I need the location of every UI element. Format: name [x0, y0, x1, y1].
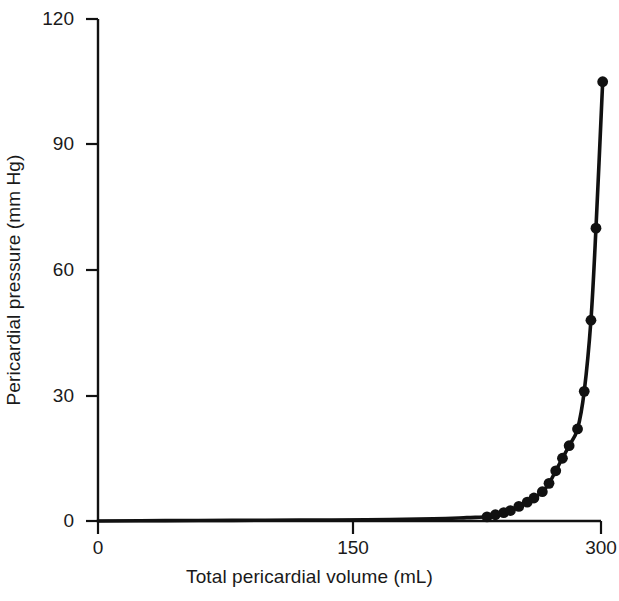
data-point — [564, 440, 575, 451]
data-point — [597, 76, 608, 87]
series-line — [98, 82, 603, 521]
data-point — [586, 315, 597, 326]
chart-canvas — [0, 0, 619, 601]
y-tick-label-30: 30 — [10, 385, 74, 407]
x-tick-label-150: 150 — [318, 537, 388, 559]
x-axis-ticks — [98, 521, 601, 534]
data-point — [572, 424, 583, 435]
axes — [86, 19, 601, 534]
y-tick-label-0: 0 — [10, 510, 74, 532]
data-series-group — [98, 76, 608, 522]
series-markers — [482, 76, 608, 522]
x-tick-label-0: 0 — [63, 537, 133, 559]
data-point — [537, 486, 548, 497]
x-tick-label-300: 300 — [566, 537, 619, 559]
data-point — [591, 223, 602, 234]
y-tick-label-60: 60 — [10, 259, 74, 281]
data-point — [550, 465, 561, 476]
data-point — [557, 453, 568, 464]
x-axis-title: Total pericardial volume (mL) — [0, 566, 619, 588]
y-tick-label-120: 120 — [10, 8, 74, 30]
pericardial-pressure-volume-chart: Total pericardial volume (mL) Pericardia… — [0, 0, 619, 601]
data-point — [544, 478, 555, 489]
y-tick-label-90: 90 — [10, 133, 74, 155]
data-point — [579, 386, 590, 397]
y-axis-ticks — [86, 19, 98, 521]
